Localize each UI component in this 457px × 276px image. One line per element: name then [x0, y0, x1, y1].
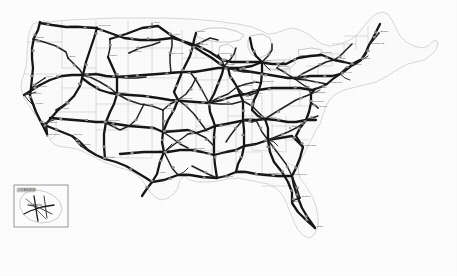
- route-shield-icon: [66, 102, 69, 104]
- route-shield-icon: [301, 122, 304, 124]
- route-shield-icon: [300, 74, 303, 76]
- route-shield-icon: [104, 121, 107, 123]
- route-shield-icon: [85, 63, 88, 65]
- route-shield-icon: [113, 125, 116, 127]
- route-shield-icon: [304, 120, 307, 122]
- route-shield-icon: [56, 75, 59, 77]
- route-shield-icon: [294, 86, 297, 88]
- route-shield-icon: [203, 176, 206, 178]
- route-shield-icon: [264, 139, 267, 141]
- route-shield-icon: [188, 72, 191, 74]
- city-label: Rapid City: [130, 50, 142, 53]
- city-label: Cincinnati: [251, 92, 262, 95]
- route-shield-icon: [341, 72, 344, 74]
- route-shield-icon: [213, 156, 216, 158]
- route-shield-icon: [208, 103, 211, 105]
- city-label: Albuquerque: [105, 119, 120, 122]
- route-shield-icon: [250, 104, 253, 106]
- route-shield-icon: [163, 120, 166, 122]
- route-shield-icon: [323, 75, 326, 77]
- route-shield-icon: [102, 146, 105, 148]
- route-shield-icon: [346, 66, 349, 68]
- route-shield-icon: [272, 174, 275, 176]
- route-shield-icon: [84, 26, 87, 28]
- city-label: Tallahassee: [268, 172, 282, 175]
- city-label: Las Vegas: [57, 107, 69, 110]
- city-label: Billings: [111, 36, 120, 39]
- route-shield-icon: [189, 88, 192, 90]
- route-shield-icon: [40, 121, 43, 123]
- city-label: Portland ME: [370, 42, 384, 45]
- city-label: Detroit: [263, 59, 271, 62]
- route-shield-icon: [145, 186, 148, 188]
- route-shield-icon: [233, 69, 236, 71]
- route-shield-icon: [175, 100, 178, 102]
- route-shield-icon: [176, 140, 179, 142]
- route-shield-icon: [34, 87, 37, 89]
- route-shield-icon: [284, 71, 287, 73]
- route-shield-icon: [367, 50, 370, 52]
- city-label: Sioux Falls: [171, 52, 184, 55]
- route-shield-icon: [181, 69, 184, 71]
- route-shield-icon: [246, 61, 249, 63]
- route-shield-icon: [230, 54, 233, 56]
- city-label: San Francisco: [25, 92, 42, 95]
- route-shield-icon: [202, 101, 205, 103]
- city-label: Syracuse: [321, 51, 332, 54]
- route-shield-icon: [292, 137, 295, 139]
- city-label: Philadelphia: [328, 81, 342, 84]
- route-shield-icon: [118, 92, 121, 94]
- route-shield-icon: [112, 75, 115, 77]
- route-shield-icon: [298, 127, 301, 129]
- route-shield-icon: [169, 52, 172, 54]
- inset-city-dot-la: [35, 208, 37, 210]
- city-label: Buffalo: [301, 54, 309, 57]
- route-shield-icon: [267, 53, 270, 55]
- route-shield-icon: [33, 34, 36, 36]
- route-shield-icon: [171, 110, 174, 112]
- route-shield-icon: [290, 189, 293, 191]
- city-label: Indianapolis: [238, 84, 252, 87]
- route-shield-icon: [164, 151, 167, 153]
- city-label: Austin: [158, 171, 166, 174]
- route-shield-icon: [307, 86, 310, 88]
- route-shield-icon: [249, 118, 252, 120]
- inset-city-label: Los Angeles: [28, 203, 43, 207]
- route-shield-icon: [100, 29, 103, 31]
- route-shield-icon: [304, 76, 307, 78]
- route-shield-icon: [277, 63, 280, 65]
- route-shield-icon: [163, 130, 166, 132]
- route-shield-icon: [136, 47, 139, 49]
- route-shield-icon: [281, 133, 284, 135]
- route-shield-icon: [309, 100, 312, 102]
- city-label: Phoenix: [73, 133, 83, 136]
- city-label: Atlanta: [269, 137, 277, 140]
- route-shield-icon: [112, 122, 115, 124]
- route-shield-icon: [146, 96, 149, 98]
- route-shield-icon: [161, 139, 164, 141]
- route-shield-icon: [315, 81, 318, 83]
- city-label: Oklahoma City: [164, 129, 181, 132]
- route-shield-icon: [373, 36, 376, 38]
- route-shield-icon: [272, 146, 275, 148]
- inset-map-los-angeles: LOS ANGELES Los Angeles: [14, 185, 68, 227]
- route-shield-icon: [175, 85, 178, 87]
- route-shield-icon: [131, 37, 134, 39]
- route-shield-icon: [305, 215, 308, 217]
- route-shield-icon: [96, 86, 99, 88]
- city-label: Birmingham: [245, 143, 258, 146]
- route-shield-icon: [169, 178, 172, 180]
- route-shield-icon: [200, 88, 203, 90]
- city-label: Milwaukee: [219, 52, 231, 55]
- route-shield-icon: [259, 127, 262, 129]
- route-shield-icon: [229, 77, 232, 79]
- route-shield-icon: [318, 63, 321, 65]
- route-shield-icon: [119, 34, 122, 36]
- route-shield-icon: [213, 136, 216, 138]
- route-shield-icon: [296, 187, 299, 189]
- route-shield-icon: [200, 47, 203, 49]
- route-shield-icon: [239, 68, 242, 70]
- route-shield-icon: [351, 62, 354, 64]
- route-shield-icon: [224, 67, 227, 69]
- route-shield-icon: [55, 128, 58, 130]
